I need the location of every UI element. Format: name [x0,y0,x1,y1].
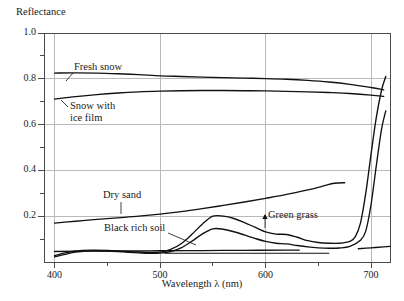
leader-snow-ice-film [61,100,68,107]
plot-canvas [0,0,404,301]
curve-snow-with-ice-film [55,90,384,99]
y-tick-label-0-6: 0.6 [10,118,36,129]
curve-label-snow-line2: ice film [70,112,102,123]
curve-label-black-rich-soil: Black rich soil [104,222,165,234]
reflectance-chart-figure: Reflectance 1.0 0.8 0.6 0.4 0.2 400 500 … [0,0,404,301]
curve-label-snow-with-ice-film: Snow with ice film [70,100,115,123]
y-tick-label-0-4: 0.4 [10,163,36,174]
curve-label-fresh-snow: Fresh snow [74,61,122,73]
curve-label-green-grass: Green grass [268,209,318,221]
x-axis-title: Wavelength λ (nm) [0,278,404,289]
leader-fresh-snow [66,73,73,81]
curve-label-snow-line1: Snow with [70,100,115,111]
y-tick-label-1-0: 1.0 [10,26,36,37]
curve-lower-right-tail [358,246,390,248]
curve-green-grass-lower [55,111,386,257]
curve-label-dry-sand: Dry sand [103,189,141,201]
y-tick-label-0-2: 0.2 [10,209,36,220]
y-tick-label-0-8: 0.8 [10,72,36,83]
curve-fresh-snow [55,73,384,90]
